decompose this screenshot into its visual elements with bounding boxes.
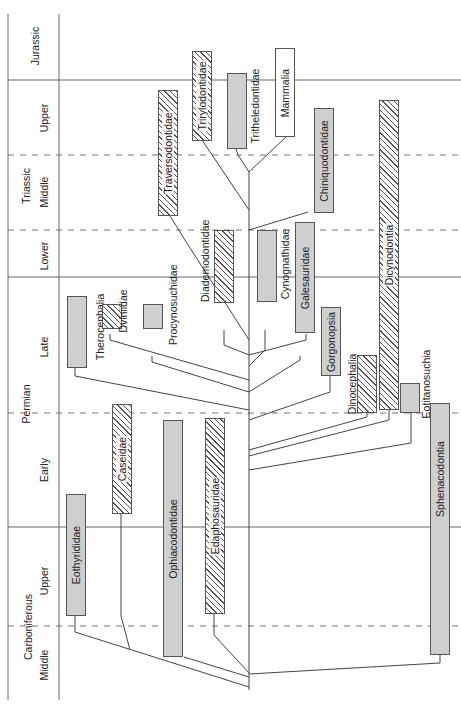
taxon-gorgonopsia: Gorgonopsia	[321, 307, 341, 376]
stage-label-lower-triassic: Lower	[38, 226, 50, 286]
system-label-permian: Permian	[20, 374, 32, 434]
taxon-label-diademodontidae: Diademodontidae	[199, 222, 211, 302]
taxon-cynognathidae	[257, 230, 277, 302]
taxon-caseidae: Caseidae	[112, 404, 132, 514]
stage-label-early-permian: Early	[38, 440, 50, 500]
taxon-therocephalia	[67, 296, 87, 368]
stage-label-middle-triassic: Middle	[38, 162, 50, 222]
taxon-dinocephalia	[357, 355, 377, 413]
taxon-procynosuchidae	[143, 304, 163, 329]
taxon-edaphosauridae: Edaphosauridae	[205, 418, 225, 614]
taxon-diademodontidae	[214, 230, 234, 303]
taxon-trirylodontidae: Trirylodontidae	[192, 51, 212, 141]
taxon-label-dinocephalia: Dinocephalia	[346, 344, 358, 424]
phylogeny-diagram: Jurassic Triassic Permian Carboniferous …	[0, 0, 461, 704]
system-label-carboniferous: Carboniferous	[22, 587, 34, 667]
taxon-traversodontidae: Traversodontidae	[158, 90, 178, 216]
stage-label-upper-carboniferous: Upper	[38, 551, 50, 611]
taxon-ophiacodontidae: Ophiacodontidae	[163, 420, 183, 657]
taxon-sphenacodontia: Sphenacodontia	[430, 403, 450, 655]
stage-label-late-permian: Late	[38, 317, 50, 377]
stage-label-middle-carboniferous: Middle	[38, 635, 50, 695]
taxon-label-procynosuchidae: Procynosuchidae	[167, 265, 179, 345]
taxon-label-dviniidae: Dviniidae	[117, 286, 129, 336]
taxon-eothyrididae: Eothyrididae	[66, 494, 86, 616]
taxon-chiniquodontidae: Chiniquodontidae	[314, 108, 334, 213]
taxon-label-tritheledontidae: Tritheledontidae	[249, 66, 261, 146]
system-label-jurassic: Jurassic	[29, 16, 41, 76]
taxon-mammalia: Mammalia	[275, 48, 295, 137]
taxon-tritheledontidae	[227, 73, 247, 149]
taxon-label-cynognathidae: Cynognathidae	[279, 224, 291, 304]
taxon-dicynodontia: Dicynodontia	[379, 100, 399, 410]
stage-label-upper-triassic: Upper	[38, 88, 50, 148]
taxon-galesauridae: Galesauridae	[295, 222, 315, 333]
system-label-triassic: Triassic	[20, 156, 32, 216]
taxon-eotitanosuchia	[400, 383, 420, 413]
